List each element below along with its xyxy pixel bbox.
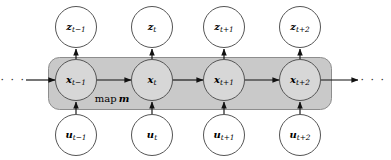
ellipsis-left: · · · [1, 74, 26, 87]
ellipsis-right: · · · [361, 74, 386, 87]
node-u-t-plus-2[interactable] [280, 115, 321, 156]
node-x-t-plus-2[interactable] [280, 60, 321, 101]
node-x-t-minus-1[interactable] [56, 60, 97, 101]
diagram-svg [0, 0, 391, 160]
node-z-t-minus-1[interactable] [56, 7, 97, 48]
diagram-canvas: zt−1 zt zt+1 zt+2 xt−1 xt xt+1 xt+2 ut−1… [0, 0, 391, 160]
node-z-t-plus-1[interactable] [204, 7, 245, 48]
node-u-t[interactable] [132, 115, 173, 156]
map-plate-label: mapm [95, 94, 129, 104]
node-x-t-plus-1[interactable] [204, 60, 245, 101]
node-u-t-minus-1[interactable] [56, 115, 97, 156]
node-u-t-plus-1[interactable] [204, 115, 245, 156]
node-z-t-plus-2[interactable] [280, 7, 321, 48]
node-x-t[interactable] [132, 60, 173, 101]
node-z-t[interactable] [132, 7, 173, 48]
